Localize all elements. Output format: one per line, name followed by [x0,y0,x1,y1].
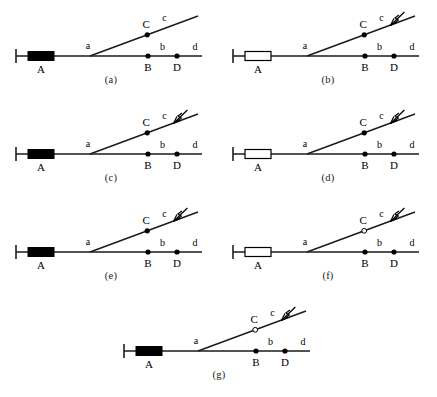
label-junction-b: a [303,40,308,51]
panel-caption-g: (g) [110,369,328,380]
panel-b: AaBDbdCc [219,2,437,101]
label-node-b-e: B [144,257,151,269]
label-node-d-f: D [390,257,398,269]
label-segment-c-e: c [162,208,167,219]
node-c-e-filled [145,228,150,233]
label-node-d-a: D [173,61,181,73]
source-box-e-filled [28,248,54,257]
fault-lightning-icon-g [281,307,295,321]
panel-caption-c: (c) [2,172,220,183]
label-node-c-d: C [360,116,367,128]
label-node-c-b: C [360,18,367,30]
label-segment-b-e: b [160,237,165,248]
label-segment-c-f: c [379,208,384,219]
source-box-g-filled [136,347,162,356]
label-segment-d-a: d [193,41,198,52]
panel-a: AaBDbdCc [2,2,220,101]
panel-e: AaBDbdCc [2,198,220,297]
label-segment-d-b: d [410,41,415,52]
panel-diagram-d: AaBDbdCc [219,100,437,199]
node-b-a [145,53,150,58]
node-b-e [145,249,150,254]
fault-lightning-icon-e [173,208,187,222]
label-segment-b-a: b [160,41,165,52]
label-node-d-d: D [390,159,398,171]
panel-diagram-a: AaBDbdCc [2,2,220,101]
label-node-c-c: C [143,116,150,128]
label-node-d-e: D [173,257,181,269]
source-box-d-hollow [245,150,271,159]
node-d-g [282,348,287,353]
label-node-d-b: D [390,61,398,73]
label-segment-b-b: b [377,41,382,52]
fault-lightning-icon-c [173,110,187,124]
panel-d: AaBDbdCc [219,100,437,199]
label-node-b-b: B [361,61,368,73]
panel-caption-e: (e) [2,270,220,281]
label-node-b-a: B [144,61,151,73]
label-junction-g: a [194,335,199,346]
label-segment-b-d: b [377,139,382,150]
panel-diagram-b: AaBDbdCc [219,2,437,101]
label-segment-b-g: b [268,336,273,347]
label-segment-c-b: c [379,12,384,23]
label-segment-b-f: b [377,237,382,248]
node-d-e [174,249,179,254]
label-segment-d-d: d [410,139,415,150]
label-junction-c: a [86,138,91,149]
node-d-b [391,53,396,58]
label-junction-a: a [86,40,91,51]
source-box-a-filled [28,52,54,61]
panel-caption-b: (b) [219,74,437,85]
figure-root: AaBDbdCc(a)AaBDbdCc(b)AaBDbdCc(c)AaBDbdC… [0,0,437,397]
label-junction-f: a [303,236,308,247]
label-node-b-c: B [144,159,151,171]
node-c-d-filled [362,130,367,135]
node-b-c [145,151,150,156]
fault-lightning-icon-f [390,208,404,222]
panel-caption-f: (f) [219,270,437,281]
label-node-d-g: D [281,356,289,368]
label-junction-d: a [303,138,308,149]
label-segment-d-e: d [193,237,198,248]
node-d-c [174,151,179,156]
label-node-b-d: B [361,159,368,171]
label-junction-e: a [86,236,91,247]
label-segment-c-a: c [162,12,167,23]
panel-caption-a: (a) [2,74,220,85]
panel-diagram-c: AaBDbdCc [2,100,220,199]
panel-g: AaBDbdCc [110,297,328,396]
label-segment-d-f: d [410,237,415,248]
source-box-c-filled [28,150,54,159]
source-box-b-hollow [245,52,271,61]
node-c-g-hollow [253,327,258,332]
label-segment-c-c: c [162,110,167,121]
label-node-b-f: B [361,257,368,269]
node-c-f-hollow [362,228,367,233]
node-d-a [174,53,179,58]
label-node-c-g: C [251,313,258,325]
fault-lightning-icon-b [390,12,404,26]
node-b-b [362,53,367,58]
label-node-d-c: D [173,159,181,171]
label-segment-c-d: c [379,110,384,121]
panel-diagram-g: AaBDbdCc [110,297,328,396]
panel-caption-d: (d) [219,172,437,183]
panel-diagram-f: AaBDbdCc [219,198,437,297]
label-node-c-f: C [360,214,367,226]
node-d-d [391,151,396,156]
node-c-a-filled [145,32,150,37]
node-b-d [362,151,367,156]
label-segment-b-c: b [160,139,165,150]
label-node-b-g: B [252,356,259,368]
node-c-b-filled [362,32,367,37]
label-segment-c-g: c [270,307,275,318]
fault-lightning-icon-d [390,110,404,124]
panel-diagram-e: AaBDbdCc [2,198,220,297]
panel-c: AaBDbdCc [2,100,220,199]
label-segment-d-g: d [301,336,306,347]
node-b-g [253,348,258,353]
node-c-c-filled [145,130,150,135]
node-b-f [362,249,367,254]
node-d-f [391,249,396,254]
